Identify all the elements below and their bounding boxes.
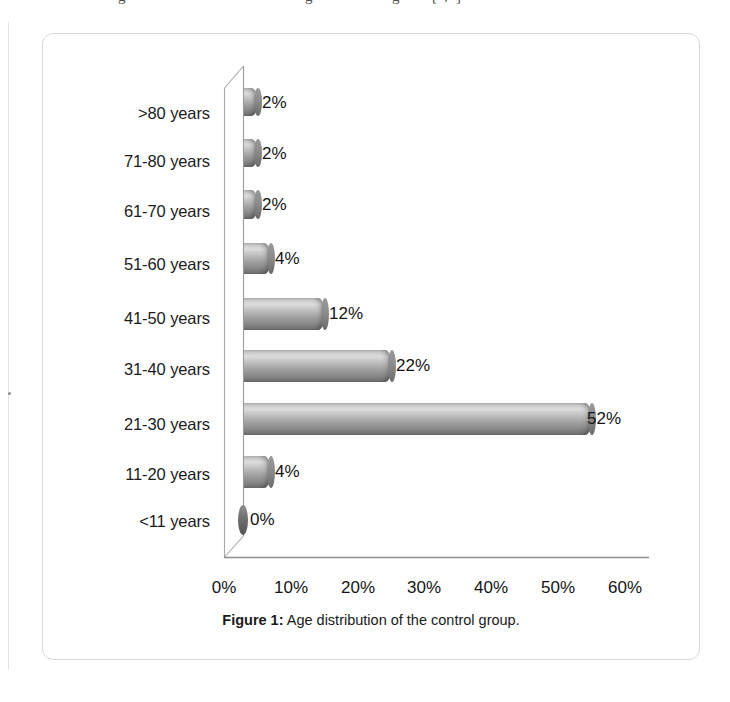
scan-artifact-left-rule bbox=[8, 22, 9, 670]
figure-caption: Figure 1: Age distribution of the contro… bbox=[42, 612, 700, 628]
figure-caption-label: Figure 1: bbox=[222, 612, 283, 628]
scan-artifact-top: g g g [ , ] bbox=[0, 0, 730, 10]
scan-artifact-speck bbox=[8, 392, 11, 395]
figure-box bbox=[42, 33, 700, 660]
figure-caption-text: Age distribution of the control group. bbox=[284, 612, 520, 628]
